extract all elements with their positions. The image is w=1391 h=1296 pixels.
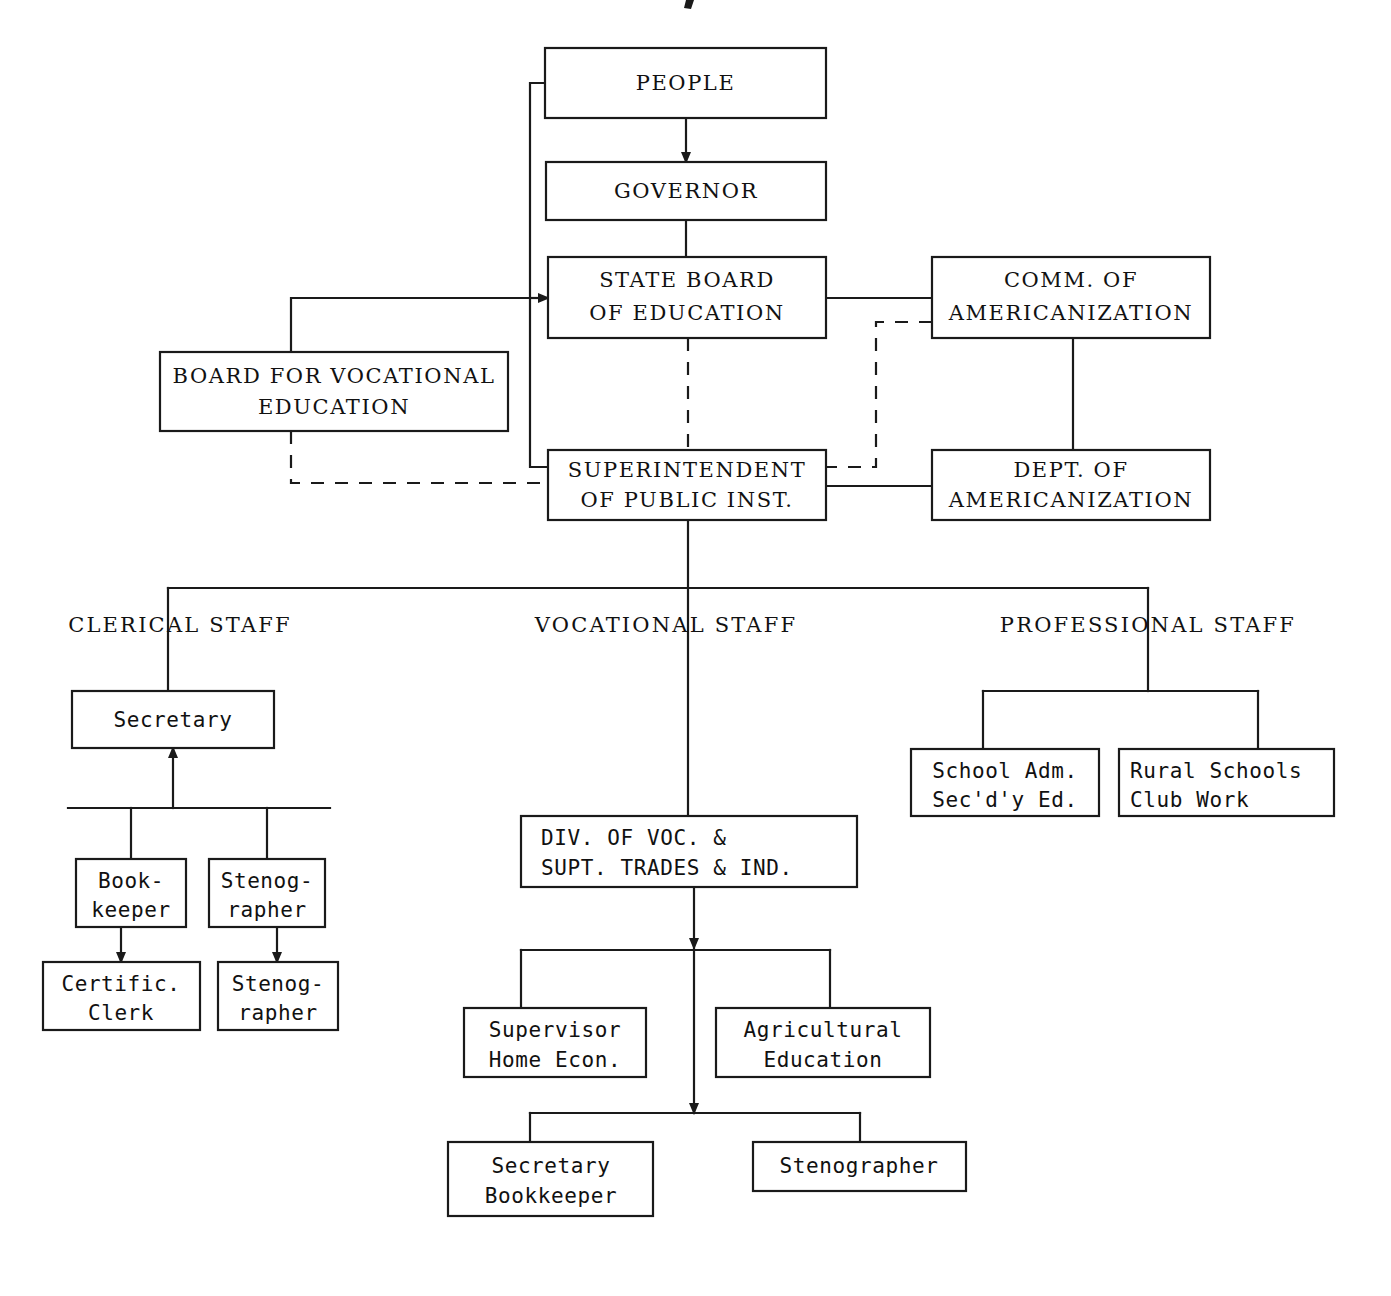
node-stenographer-vocational[interactable]: Stenographer bbox=[753, 1142, 966, 1191]
connector-div-voc-children bbox=[521, 887, 830, 1113]
node-rural-schools-label-line2: Club Work bbox=[1130, 788, 1249, 812]
node-secretary-clerical-label: Secretary bbox=[113, 708, 232, 732]
node-stenographer-upper-label-line1: Stenog- bbox=[221, 869, 314, 893]
node-div-of-vocational[interactable]: DIV. OF VOC. & SUPT. TRADES & IND. bbox=[521, 816, 857, 887]
node-state-board[interactable]: STATE BOARD OF EDUCATION bbox=[548, 257, 826, 338]
node-stenographer-lower-label-line1: Stenog- bbox=[232, 972, 325, 996]
node-superintendent-label-line2: OF PUBLIC INST. bbox=[581, 488, 794, 512]
node-superintendent[interactable]: SUPERINTENDENT OF PUBLIC INST. bbox=[548, 450, 826, 520]
node-bookkeeper-label-line1: Book- bbox=[98, 869, 164, 893]
node-agricultural-education[interactable]: Agricultural Education bbox=[716, 1008, 930, 1077]
node-school-adm-label-line1: School Adm. bbox=[932, 759, 1078, 783]
node-governor-label: GOVERNOR bbox=[614, 179, 758, 203]
node-dept-americanization-label-line2: AMERICANIZATION bbox=[948, 488, 1194, 512]
node-state-board-label-line1: STATE BOARD bbox=[599, 268, 775, 292]
node-governor[interactable]: GOVERNOR bbox=[546, 162, 826, 220]
node-rural-schools[interactable]: Rural Schools Club Work bbox=[1119, 749, 1334, 816]
scan-artifact-mark bbox=[684, 0, 694, 9]
node-stenographer-vocational-label: Stenographer bbox=[780, 1154, 939, 1178]
connector-secretary-to-clerical-bar bbox=[68, 746, 330, 859]
node-supervisor-label-line1: Supervisor bbox=[489, 1018, 621, 1042]
node-div-voc-label-line1: DIV. OF VOC. & bbox=[541, 826, 726, 850]
node-board-for-vocational-education[interactable]: BOARD FOR VOCATIONAL EDUCATION bbox=[160, 352, 508, 431]
node-certific-clerk-label-line1: Certific. bbox=[61, 972, 180, 996]
connector-comm-amer-to-superintendent bbox=[826, 322, 932, 467]
node-secretary-bookkeeper[interactable]: Secretary Bookkeeper bbox=[448, 1142, 653, 1216]
node-rural-schools-label-line1: Rural Schools bbox=[1130, 759, 1302, 783]
node-stenographer-lower-label-line2: rapher bbox=[238, 1001, 317, 1025]
group-label-professional-staff: PROFESSIONAL STAFF bbox=[1000, 613, 1296, 637]
org-chart-canvas: PEOPLE GOVERNOR STATE BOARD OF EDUCATION… bbox=[0, 0, 1391, 1296]
node-dept-americanization[interactable]: DEPT. OF AMERICANIZATION bbox=[932, 450, 1210, 520]
node-school-adm[interactable]: School Adm. Sec'd'y Ed. bbox=[911, 749, 1099, 816]
node-bookkeeper[interactable]: Book- keeper bbox=[76, 859, 186, 927]
node-secretary-bookkeeper-label-line1: Secretary bbox=[491, 1154, 610, 1178]
node-supervisor-home-econ[interactable]: Supervisor Home Econ. bbox=[464, 1008, 646, 1077]
node-comm-americanization[interactable]: COMM. OF AMERICANIZATION bbox=[932, 257, 1210, 338]
connector-board-voc-to-state-board bbox=[291, 298, 530, 352]
node-people-label: PEOPLE bbox=[636, 71, 736, 95]
node-dept-americanization-label-line1: DEPT. OF bbox=[1013, 458, 1128, 482]
org-chart-svg: PEOPLE GOVERNOR STATE BOARD OF EDUCATION… bbox=[0, 0, 1391, 1296]
node-superintendent-label-line1: SUPERINTENDENT bbox=[568, 458, 807, 482]
node-board-voc-label-line2: EDUCATION bbox=[258, 395, 410, 419]
node-stenographer-clerical-upper[interactable]: Stenog- rapher bbox=[209, 859, 325, 927]
connector-people-to-governor bbox=[681, 118, 691, 164]
node-div-voc-label-line2: SUPT. TRADES & IND. bbox=[541, 856, 793, 880]
group-label-layer: CLERICAL STAFF VOCATIONAL STAFF PROFESSI… bbox=[68, 613, 1296, 637]
node-certific-clerk-label-line2: Clerk bbox=[88, 1001, 154, 1025]
node-comm-americanization-label-line1: COMM. OF bbox=[1004, 268, 1138, 292]
node-agricultural-label-line1: Agricultural bbox=[744, 1018, 903, 1042]
connector-bookkeeper-to-certific-clerk bbox=[116, 927, 126, 964]
node-agricultural-label-line2: Education bbox=[763, 1048, 882, 1072]
node-board-voc-label-line1: BOARD FOR VOCATIONAL bbox=[173, 364, 496, 388]
node-comm-americanization-label-line2: AMERICANIZATION bbox=[948, 301, 1194, 325]
node-stenographer-upper-label-line2: rapher bbox=[227, 898, 306, 922]
connector-board-voc-to-superintendent bbox=[291, 431, 548, 483]
node-school-adm-label-line2: Sec'd'y Ed. bbox=[932, 788, 1078, 812]
connector-div-voc-support-bar bbox=[530, 1103, 860, 1142]
group-label-clerical-staff: CLERICAL STAFF bbox=[68, 613, 292, 637]
node-supervisor-label-line2: Home Econ. bbox=[489, 1048, 621, 1072]
group-label-vocational-staff: VOCATIONAL STAFF bbox=[534, 613, 798, 637]
node-stenographer-clerical-lower[interactable]: Stenog- rapher bbox=[218, 962, 338, 1030]
node-certific-clerk[interactable]: Certific. Clerk bbox=[43, 962, 200, 1030]
node-people[interactable]: PEOPLE bbox=[545, 48, 826, 118]
connector-professional-children bbox=[983, 691, 1258, 749]
node-state-board-label-line2: OF EDUCATION bbox=[589, 301, 785, 325]
node-secretary-clerical[interactable]: Secretary bbox=[72, 691, 274, 748]
node-bookkeeper-label-line2: keeper bbox=[91, 898, 170, 922]
connector-staff-distribution-bar bbox=[168, 588, 1148, 691]
connector-stenographer1-to-stenographer2 bbox=[272, 927, 282, 964]
node-secretary-bookkeeper-label-line2: Bookkeeper bbox=[485, 1184, 617, 1208]
